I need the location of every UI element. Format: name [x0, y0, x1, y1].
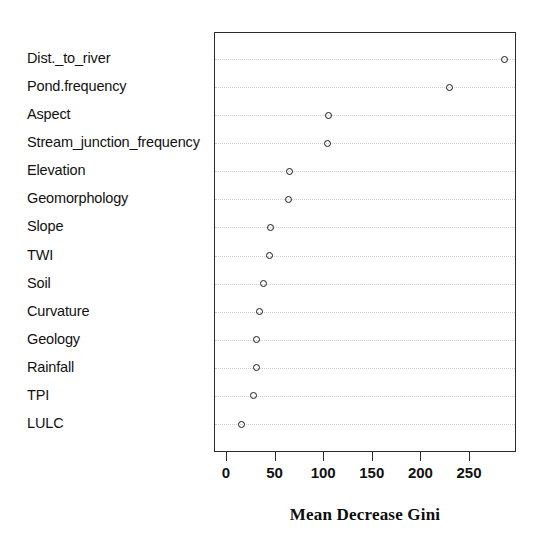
x-axis-tick	[469, 452, 470, 461]
gridline	[215, 143, 515, 144]
x-axis-tick	[275, 452, 276, 461]
category-label: Aspect	[0, 107, 208, 122]
x-axis-tick-label: 150	[359, 464, 384, 481]
x-axis-tick	[420, 452, 421, 461]
x-axis-tick-label: 250	[456, 464, 481, 481]
x-axis-tick-label: 50	[266, 464, 283, 481]
category-label-column: Dist._to_riverPond.frequencyAspectStream…	[0, 32, 210, 452]
x-axis-title: Mean Decrease Gini	[214, 505, 516, 525]
data-point	[266, 252, 273, 259]
plot-area	[214, 32, 516, 452]
data-point	[238, 421, 245, 428]
x-axis-tick	[323, 452, 324, 461]
x-axis: 050100150200250	[214, 452, 516, 512]
gridline	[215, 340, 515, 341]
x-axis-tick	[226, 452, 227, 461]
category-label: Elevation	[0, 163, 208, 178]
gridline	[215, 171, 515, 172]
data-point	[256, 308, 263, 315]
category-label: Geology	[0, 332, 208, 347]
data-point	[324, 140, 331, 147]
gridline	[215, 368, 515, 369]
category-label: Soil	[0, 276, 208, 291]
data-point	[501, 56, 508, 63]
category-label: Stream_junction_frequency	[0, 135, 208, 150]
gridline	[215, 396, 515, 397]
category-label: TPI	[0, 388, 208, 403]
category-label: Pond.frequency	[0, 79, 208, 94]
category-label: Geomorphology	[0, 191, 208, 206]
gridline	[215, 59, 515, 60]
category-label: Dist._to_river	[0, 51, 208, 66]
data-point	[250, 392, 257, 399]
category-label: Slope	[0, 219, 208, 234]
data-point	[267, 224, 274, 231]
gridline	[215, 227, 515, 228]
gridline	[215, 256, 515, 257]
data-point	[286, 168, 293, 175]
category-label: TWI	[0, 248, 208, 263]
data-point	[253, 364, 260, 371]
x-axis-tick-label: 200	[408, 464, 433, 481]
x-axis-tick	[372, 452, 373, 461]
data-point	[446, 84, 453, 91]
gridline	[215, 115, 515, 116]
x-axis-tick-label: 0	[222, 464, 230, 481]
data-point	[325, 112, 332, 119]
category-label: Curvature	[0, 304, 208, 319]
gridline	[215, 424, 515, 425]
gridline	[215, 87, 515, 88]
data-point	[285, 196, 292, 203]
category-label: LULC	[0, 416, 208, 431]
variable-importance-dotchart: Dist._to_riverPond.frequencyAspectStream…	[0, 0, 540, 553]
data-point	[253, 336, 260, 343]
data-point	[260, 280, 267, 287]
category-label: Rainfall	[0, 360, 208, 375]
gridline	[215, 199, 515, 200]
x-axis-tick-label: 100	[311, 464, 336, 481]
